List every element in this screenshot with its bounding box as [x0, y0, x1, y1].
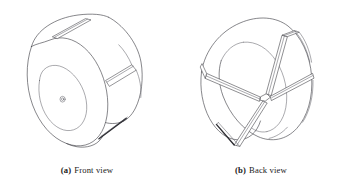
rim-slot-top	[52, 19, 91, 39]
vane-left	[200, 64, 260, 102]
caption-text-b: Back view	[249, 165, 287, 175]
subfigure-front-view: (a)Front view	[0, 0, 174, 191]
caption-tag-a: (a)	[61, 165, 71, 175]
subfigure-back-view: (b)Back view	[174, 0, 348, 191]
back-view-drawing	[174, 0, 348, 166]
front-view-drawing	[0, 0, 174, 166]
rim-slot-right	[106, 65, 137, 87]
caption-text-a: Front view	[74, 165, 113, 175]
vane-right-stub	[270, 73, 314, 100]
rim-edge-right-lower	[119, 45, 132, 65]
caption-tag-b: (b)	[235, 165, 246, 175]
figure-container: (a)Front view	[0, 0, 348, 191]
caption-front-view: (a)Front view	[0, 164, 174, 176]
rim-slot-openings-back	[269, 31, 313, 139]
caption-back-view: (b)Back view	[174, 164, 348, 176]
front-face-outline	[27, 38, 108, 146]
